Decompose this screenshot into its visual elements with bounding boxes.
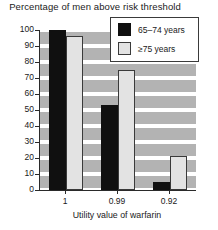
y-tick-label: 70 <box>25 72 34 82</box>
y-tick-label: 0 <box>29 184 34 194</box>
y-tick-label: 50 <box>25 104 34 114</box>
legend-label-1: ≥75 years <box>138 44 175 54</box>
y-axis-tick: 20 <box>0 158 39 159</box>
legend-item-0: 65–74 years <box>118 23 185 36</box>
bar-1-series-0 <box>49 30 66 190</box>
legend-item-1: ≥75 years <box>118 42 175 55</box>
x-tick-mark <box>169 190 170 194</box>
x-tick-mark <box>117 190 118 194</box>
y-axis-tick: 60 <box>0 94 39 95</box>
y-axis-tick: 10 <box>0 174 39 175</box>
y-tick-label: 20 <box>25 152 34 162</box>
bar-1-series-1 <box>66 36 83 190</box>
y-tick-label: 100 <box>20 24 34 34</box>
chart-legend: 65–74 years ≥75 years <box>110 17 199 62</box>
y-tick-label: 80 <box>25 56 34 66</box>
y-axis-tick: 0 <box>0 190 39 191</box>
x-axis-title: Utility value of warfarin <box>39 210 195 220</box>
y-axis-tick: 40 <box>0 126 39 127</box>
y-axis-tick: 50 <box>0 110 39 111</box>
y-axis-tick: 70 <box>0 78 39 79</box>
bar-0_92-series-1 <box>170 156 187 190</box>
x-tick-label-2: 0.92 <box>161 196 178 206</box>
y-axis-tick: 30 <box>0 142 39 143</box>
y-axis-tick: 90 <box>0 46 39 47</box>
bar-chart: Percentage of men above risk threshold 0… <box>0 0 218 230</box>
x-tick-label-0: 1 <box>63 196 68 206</box>
y-axis-tick: 80 <box>0 62 39 63</box>
y-tick-label: 30 <box>25 136 34 146</box>
bar-0_99-series-0 <box>101 105 118 190</box>
legend-swatch-icon-1 <box>118 42 131 55</box>
x-tick-label-1: 0.99 <box>109 196 126 206</box>
legend-swatch-icon-0 <box>118 23 131 36</box>
chart-title: Percentage of men above risk threshold <box>0 1 190 12</box>
y-tick-label: 60 <box>25 88 34 98</box>
y-tick-label: 10 <box>25 168 34 178</box>
y-tick-label: 90 <box>25 40 34 50</box>
bar-0_99-series-1 <box>118 70 135 190</box>
y-axis-tick: 100 <box>0 30 39 31</box>
x-axis: 10.990.92 <box>39 190 195 210</box>
legend-label-0: 65–74 years <box>138 25 185 35</box>
bar-0_92-series-0 <box>153 182 170 190</box>
y-axis: 0102030405060708090100 <box>0 30 39 190</box>
x-tick-mark <box>65 190 66 194</box>
y-tick-label: 40 <box>25 120 34 130</box>
